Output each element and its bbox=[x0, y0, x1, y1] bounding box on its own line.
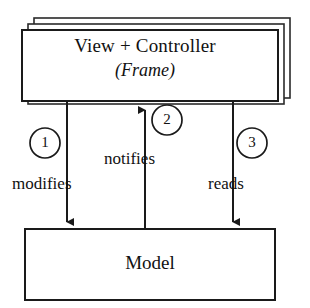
model-title: Model bbox=[25, 253, 275, 272]
flow-label-modifies: modifies bbox=[12, 175, 72, 192]
flow-label-notifies: notifies bbox=[104, 150, 155, 167]
flow-label-reads: reads bbox=[208, 175, 244, 192]
mvc-diagram: View + Controller (Frame) Model 1 2 3 mo… bbox=[0, 0, 310, 308]
view-controller-subtitle: (Frame) bbox=[0, 61, 290, 79]
flow-number-3: 3 bbox=[240, 135, 264, 150]
flow-number-1: 1 bbox=[33, 135, 57, 150]
view-controller-title: View + Controller bbox=[0, 36, 290, 55]
flow-number-2: 2 bbox=[155, 112, 179, 127]
